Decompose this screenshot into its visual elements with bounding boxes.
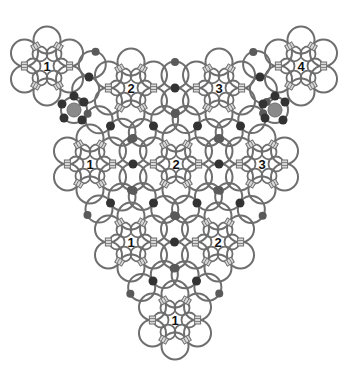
joint-dot <box>70 92 79 101</box>
link-connector <box>64 160 70 168</box>
joint-dot <box>281 98 290 107</box>
joint-dot <box>192 277 201 286</box>
link-connector <box>160 179 170 188</box>
link-connector <box>182 179 192 188</box>
joint-dot <box>170 264 178 272</box>
cluster-label: 1 <box>86 157 93 172</box>
cluster-label: 3 <box>258 157 265 172</box>
link-connector <box>195 316 201 324</box>
link-connector <box>224 218 234 227</box>
link-connector <box>115 218 125 227</box>
rings-layer <box>11 27 337 360</box>
link-connector <box>67 62 73 70</box>
joint-dot <box>171 212 179 220</box>
link-connector <box>53 81 63 90</box>
link-connector <box>238 238 244 246</box>
link-connector <box>31 42 41 51</box>
joint-dot <box>171 84 180 93</box>
link-connector <box>285 81 295 90</box>
link-connector <box>21 62 27 70</box>
joint-dot <box>279 116 288 125</box>
joint-dot <box>58 100 67 109</box>
cluster-label: 1 <box>127 235 134 250</box>
link-connector <box>181 335 191 344</box>
link-connector <box>159 296 169 305</box>
joint-dot <box>129 160 138 169</box>
link-connector <box>160 140 170 149</box>
link-connector <box>96 179 106 188</box>
link-connector <box>246 179 256 188</box>
link-connector <box>193 84 199 92</box>
joint-dot <box>249 48 257 56</box>
joint-dot <box>271 92 280 101</box>
link-connector <box>53 42 63 51</box>
link-connector <box>202 257 212 266</box>
link-connector <box>224 257 234 266</box>
link-connector <box>105 84 111 92</box>
joint-dot <box>259 212 267 220</box>
cluster-label: 4 <box>297 59 305 74</box>
link-connector <box>74 140 84 149</box>
joint-dot <box>80 98 89 107</box>
link-connector <box>115 64 125 73</box>
link-connector <box>225 64 235 73</box>
joint-dot <box>215 134 223 142</box>
cluster-label: 1 <box>171 313 178 328</box>
joint-dot <box>78 116 87 125</box>
link-connector <box>202 218 212 227</box>
cluster-label: 3 <box>215 81 222 96</box>
joint-dot <box>84 110 92 118</box>
link-connector <box>268 140 278 149</box>
joints-layer <box>58 48 290 298</box>
joint-dot <box>149 122 158 131</box>
link-connector <box>137 64 147 73</box>
joint-dot <box>193 122 202 131</box>
link-connector <box>137 218 147 227</box>
link-connector <box>285 42 295 51</box>
link-connector <box>115 257 125 266</box>
joint-dot <box>170 238 179 247</box>
big-joint <box>268 103 282 117</box>
link-connector <box>181 296 191 305</box>
link-connector <box>115 103 125 112</box>
link-connector <box>282 160 288 168</box>
link-connector <box>307 81 317 90</box>
joint-dot <box>256 73 265 82</box>
joint-dot <box>259 100 268 109</box>
link-connector <box>137 257 147 266</box>
joint-dot <box>92 48 100 56</box>
link-connector <box>150 160 156 168</box>
joint-dot <box>213 186 221 194</box>
joint-dot <box>85 73 94 82</box>
link-connector <box>307 42 317 51</box>
joint-dot <box>60 114 69 123</box>
link-connector <box>151 84 157 92</box>
link-connector <box>182 140 192 149</box>
joint-dot <box>171 109 179 117</box>
link-connector <box>137 103 147 112</box>
link-connector <box>74 179 84 188</box>
joint-dot <box>171 58 179 66</box>
joint-dot <box>149 199 158 208</box>
link-connector <box>203 64 213 73</box>
joint-dot <box>261 114 270 123</box>
bridge-ring <box>243 51 270 78</box>
link-connector <box>159 335 169 344</box>
joint-dot <box>215 290 223 298</box>
link-connector <box>192 238 198 246</box>
joint-dot <box>236 199 245 208</box>
link-connector <box>268 179 278 188</box>
link-connector <box>196 160 202 168</box>
link-connector <box>321 62 327 70</box>
link-connector <box>96 140 106 149</box>
joint-dot <box>129 134 137 142</box>
link-connector <box>110 160 116 168</box>
link-connector <box>203 103 213 112</box>
cluster-label: 2 <box>172 157 179 172</box>
joint-dot <box>106 122 115 131</box>
joint-dot <box>149 277 158 286</box>
link-connector <box>246 140 256 149</box>
joint-dot <box>193 199 202 208</box>
joint-dot <box>236 122 245 131</box>
link-connector <box>105 238 111 246</box>
